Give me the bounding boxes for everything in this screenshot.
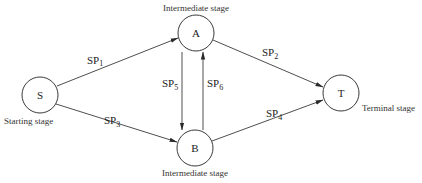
edge-label-sp6: SP6 xyxy=(207,77,223,92)
edge-label-sp1: SP1 xyxy=(87,54,103,68)
node-s-label: S xyxy=(37,89,43,101)
edge-label-sp3: SP3 xyxy=(104,114,120,129)
caption-terminal-stage: Terminal stage xyxy=(362,103,415,113)
node-t: T xyxy=(323,75,359,111)
edge-s-to-a xyxy=(57,38,178,86)
node-b: B xyxy=(177,130,213,166)
edge-label-sp2: SP2 xyxy=(262,46,278,61)
node-a-label: A xyxy=(192,27,200,39)
stage-diagram: S A B T Starting stage Intermediate stag… xyxy=(0,0,422,183)
node-s: S xyxy=(22,77,58,113)
node-t-label: T xyxy=(338,87,345,99)
caption-starting-stage: Starting stage xyxy=(4,116,53,126)
edge-label-sp5: SP5 xyxy=(162,77,178,92)
caption-a-intermediate-stage: Intermediate stage xyxy=(163,3,229,13)
caption-b-intermediate-stage: Intermediate stage xyxy=(162,168,228,178)
node-b-label: B xyxy=(191,142,198,154)
node-a: A xyxy=(178,15,214,51)
